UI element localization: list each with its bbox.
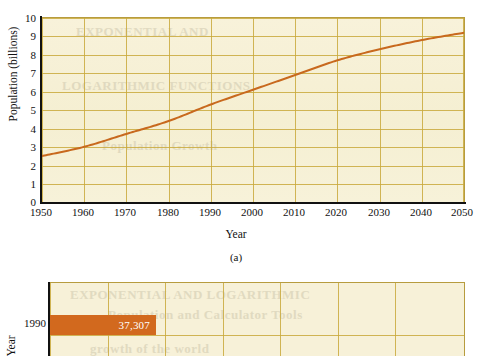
x-axis-line (40, 202, 466, 204)
figure-caption-a: (a) (0, 251, 472, 263)
gridline-v (280, 283, 281, 356)
y-tick-7: 7 (2, 68, 36, 79)
y-axis-label-b: Year (5, 321, 17, 356)
y-axis-line (40, 16, 42, 204)
x-axis-label: Year (0, 228, 472, 240)
bar-1990: 37,307 (50, 315, 156, 335)
y-tick-10: 10 (2, 13, 36, 24)
y-tick-2: 2 (2, 161, 36, 172)
gridline-v (395, 283, 396, 356)
y-tick-8: 8 (2, 50, 36, 61)
gridline-h (50, 335, 464, 336)
y-tick-1: 1 (2, 179, 36, 190)
population-curve (42, 18, 464, 202)
y-tick-3: 3 (2, 142, 36, 153)
y-axis-tick-labels: 10 9 8 7 6 5 4 3 2 1 0 (0, 0, 36, 220)
y-tick-9: 9 (2, 31, 36, 42)
y-tick-4: 4 (2, 124, 36, 135)
x-tick-2050: 2050 (432, 206, 478, 218)
year-bar-chart-partial: EXPONENTIAL AND LOGARITHMIC Population a… (0, 282, 472, 356)
gridline-v (338, 283, 339, 356)
bar-value-label: 37,307 (119, 320, 150, 331)
y-tick-6: 6 (2, 87, 36, 98)
plot-area: EXPONENTIAL AND LOGARITHMIC FUNCTIONS Po… (41, 17, 465, 203)
gridline-v (223, 283, 224, 356)
gridline-v (165, 283, 166, 356)
y-tick-5: 5 (2, 105, 36, 116)
population-line-chart: Population (billions) 10 9 8 7 6 5 4 3 2… (0, 0, 472, 268)
